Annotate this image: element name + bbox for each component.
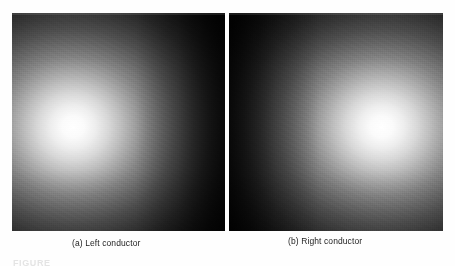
grayscale-field-a [12, 13, 225, 231]
scan-seam-a [12, 13, 225, 15]
intensity-map-right-conductor [229, 13, 443, 231]
panel-caption-left-conductor: (a) Left conductor [72, 238, 140, 248]
figure-label-cropped: FIGURE [13, 258, 51, 266]
scan-grain-b [229, 13, 443, 231]
intensity-map-left-conductor [12, 13, 225, 231]
figure-page: (a) Left conductor (b) Right conductor F… [0, 0, 455, 266]
panel-caption-right-conductor: (b) Right conductor [288, 236, 362, 246]
scan-grain-a [12, 13, 225, 231]
scan-seam-b [229, 13, 443, 15]
grayscale-field-b [229, 13, 443, 231]
